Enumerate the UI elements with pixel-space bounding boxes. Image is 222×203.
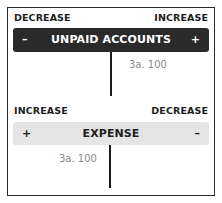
right-entry: 3a. 100 (129, 59, 167, 70)
plus-sign-icon: + (191, 28, 200, 52)
account-header-unpaid-accounts: – UNPAID ACCOUNTS + (13, 28, 209, 52)
account-title: UNPAID ACCOUNTS (13, 28, 209, 52)
minus-sign-icon: – (195, 122, 201, 145)
left-side-label: DECREASE (14, 12, 71, 23)
t-account-divider-line (109, 145, 111, 188)
t-account-divider-line (110, 52, 112, 96)
account-header-expense: + EXPENSE – (13, 122, 209, 145)
left-side-label: INCREASE (14, 105, 68, 116)
right-side-label: DECREASE (151, 105, 208, 116)
left-entry: 3a. 100 (59, 153, 97, 164)
account-title: EXPENSE (13, 122, 209, 145)
right-side-label: INCREASE (154, 12, 208, 23)
